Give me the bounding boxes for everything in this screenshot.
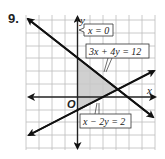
svg-text:x = 0: x = 0 [87, 25, 109, 36]
label-3x-4y-12: 3x + 4y = 12 [86, 44, 149, 72]
x-axis-label: x [146, 84, 152, 96]
graph: y x O x = 0 3x + 4y = 12 x − 2y = 2 [0, 0, 165, 159]
label-x-equals-0: x = 0 [79, 24, 113, 36]
label-x-2y-2: x − 2y = 2 [80, 103, 131, 128]
svg-text:x − 2y = 2: x − 2y = 2 [82, 116, 125, 127]
svg-text:3x + 4y = 12: 3x + 4y = 12 [88, 46, 141, 57]
origin-label: O [67, 98, 76, 110]
